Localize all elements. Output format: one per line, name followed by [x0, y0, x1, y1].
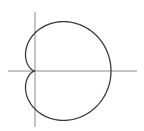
cardioid-plot	[0, 0, 144, 131]
